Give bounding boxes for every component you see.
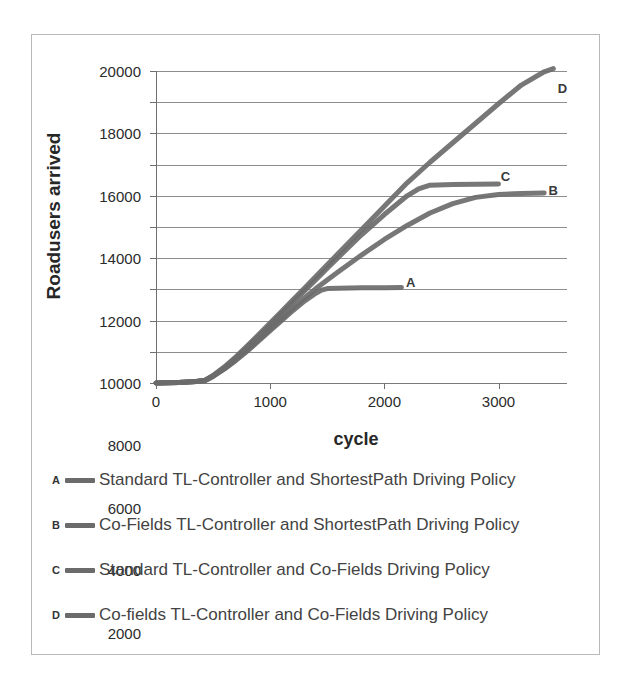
legend-item-d[interactable]: DCo-fields TL-Controller and Co-Fields D…: [52, 602, 488, 628]
gridline: [156, 383, 567, 384]
series-line-c: [156, 184, 499, 383]
legend-label: Co-fields TL-Controller and Co-Fields Dr…: [99, 605, 488, 625]
legend-item-b[interactable]: BCo-Fields TL-Controller and ShortestPat…: [52, 512, 519, 538]
y-axis-tick-label: 10000: [99, 375, 141, 392]
legend-label: Standard TL-Controller and Co-Fields Dri…: [99, 560, 490, 580]
legend-line-swatch-icon: [65, 568, 95, 573]
y-axis-tick-label: 18000: [99, 125, 141, 142]
y-axis-tick-label: 14000: [99, 250, 141, 267]
figure-frame: Roadusers arrived 0200040006000800010000…: [31, 34, 600, 655]
y-axis-tick-label: 16000: [99, 187, 141, 204]
legend-line-swatch-icon: [65, 523, 95, 528]
y-axis-tick-label: 20000: [99, 63, 141, 80]
plot-area: 0200040006000800010000120001400016000180…: [156, 71, 567, 383]
series-line-d: [156, 69, 553, 383]
legend-label: Co-Fields TL-Controller and ShortestPath…: [99, 515, 519, 535]
x-axis-tick: [384, 383, 385, 389]
legend-item-a[interactable]: AStandard TL-Controller and ShortestPath…: [52, 467, 515, 493]
chart-area: Roadusers arrived 0200040006000800010000…: [32, 35, 599, 455]
legend-item-c[interactable]: CStandard TL-Controller and Co-Fields Dr…: [52, 557, 490, 583]
series-line-a: [156, 288, 401, 383]
x-axis-tick-label: 3000: [482, 393, 515, 410]
series-end-label-b: B: [549, 182, 558, 197]
chart-legend: AStandard TL-Controller and ShortestPath…: [32, 459, 599, 654]
legend-key: C: [52, 564, 65, 576]
legend-key: B: [52, 519, 65, 531]
x-axis-tick-label: 2000: [368, 393, 401, 410]
y-axis-tick-label: 8000: [108, 437, 141, 454]
series-end-label-a: A: [406, 275, 415, 290]
series-lines: [156, 71, 567, 383]
legend-line-swatch-icon: [65, 478, 95, 483]
legend-key: D: [52, 609, 65, 621]
legend-key: A: [52, 474, 65, 486]
y-axis-title: Roadusers arrived: [43, 121, 65, 311]
y-axis-tick-label: 12000: [99, 312, 141, 329]
x-axis-tick: [499, 383, 500, 389]
legend-line-swatch-icon: [65, 613, 95, 618]
series-end-label-d: D: [558, 81, 567, 96]
x-axis-tick-label: 1000: [253, 393, 286, 410]
series-end-label-c: C: [501, 168, 510, 183]
legend-label: Standard TL-Controller and ShortestPath …: [99, 470, 515, 490]
x-axis-tick: [270, 383, 271, 389]
x-axis-tick-label: 0: [152, 393, 160, 410]
x-axis-title: cycle: [156, 429, 556, 450]
